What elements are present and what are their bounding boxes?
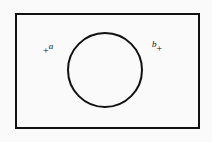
point-label-b-symbol: b — [152, 39, 157, 49]
point-label-a: +a — [43, 38, 53, 54]
circle-shape — [68, 33, 142, 107]
plus-marker-icon: + — [157, 43, 163, 54]
diagram-svg — [0, 0, 212, 142]
figure-canvas: +a b+ — [0, 0, 212, 142]
point-label-a-symbol: a — [49, 41, 54, 51]
plus-marker-icon: + — [43, 45, 49, 56]
point-label-b: b+ — [152, 34, 162, 50]
boundary-rectangle — [16, 14, 199, 128]
